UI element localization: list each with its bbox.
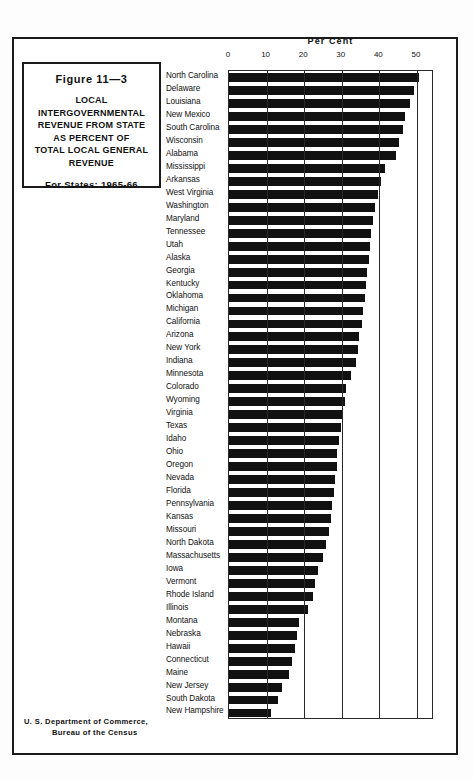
bar-row[interactable] bbox=[229, 668, 432, 681]
bar-row[interactable] bbox=[229, 136, 432, 149]
bar[interactable] bbox=[229, 255, 369, 264]
bar-row[interactable] bbox=[229, 499, 432, 512]
bar-row[interactable] bbox=[229, 694, 432, 707]
x-axis-tick-40: 40 bbox=[374, 50, 383, 59]
bar-row[interactable] bbox=[229, 538, 432, 551]
bar-row[interactable] bbox=[229, 681, 432, 694]
bar-row[interactable] bbox=[229, 330, 432, 343]
bar[interactable] bbox=[229, 112, 405, 121]
bar[interactable] bbox=[229, 86, 414, 95]
bar-row[interactable] bbox=[229, 175, 432, 188]
gridline-40 bbox=[379, 71, 380, 718]
bar[interactable] bbox=[229, 514, 331, 523]
bar-row[interactable] bbox=[229, 201, 432, 214]
bar-row[interactable] bbox=[229, 525, 432, 538]
bar-row[interactable] bbox=[229, 253, 432, 266]
bar-row[interactable] bbox=[229, 642, 432, 655]
bar-row[interactable] bbox=[229, 655, 432, 668]
bar-row[interactable] bbox=[229, 227, 432, 240]
bar-row[interactable] bbox=[229, 291, 432, 304]
bar[interactable] bbox=[229, 488, 334, 497]
bar-row[interactable] bbox=[229, 395, 432, 408]
bar[interactable] bbox=[229, 696, 278, 705]
bar-row[interactable] bbox=[229, 317, 432, 330]
bar[interactable] bbox=[229, 397, 345, 406]
bar-row[interactable] bbox=[229, 240, 432, 253]
bar-row[interactable] bbox=[229, 84, 432, 97]
bar[interactable] bbox=[229, 657, 292, 666]
bar-row[interactable] bbox=[229, 382, 432, 395]
bar-row[interactable] bbox=[229, 577, 432, 590]
bar[interactable] bbox=[229, 423, 341, 432]
bar[interactable] bbox=[229, 592, 313, 601]
bar[interactable] bbox=[229, 345, 358, 354]
bar-row[interactable] bbox=[229, 369, 432, 382]
bar[interactable] bbox=[229, 138, 399, 147]
bar[interactable] bbox=[229, 527, 329, 536]
bar[interactable] bbox=[229, 436, 339, 445]
bar[interactable] bbox=[229, 410, 343, 419]
bar-row[interactable] bbox=[229, 110, 432, 123]
bar[interactable] bbox=[229, 358, 356, 367]
category-label: South Carolina bbox=[166, 122, 226, 135]
bar[interactable] bbox=[229, 644, 295, 653]
bar-row[interactable] bbox=[229, 460, 432, 473]
bar[interactable] bbox=[229, 268, 367, 277]
bar-row[interactable] bbox=[229, 188, 432, 201]
bar[interactable] bbox=[229, 371, 351, 380]
bar[interactable] bbox=[229, 164, 385, 173]
bar[interactable] bbox=[229, 670, 289, 679]
bar[interactable] bbox=[229, 216, 373, 225]
bar-row[interactable] bbox=[229, 304, 432, 317]
bar-row[interactable] bbox=[229, 590, 432, 603]
bar-row[interactable] bbox=[229, 356, 432, 369]
bar-row[interactable] bbox=[229, 71, 432, 84]
bar[interactable] bbox=[229, 618, 299, 627]
bar[interactable] bbox=[229, 540, 326, 549]
bar[interactable] bbox=[229, 475, 335, 484]
bar[interactable] bbox=[229, 579, 315, 588]
bar-row[interactable] bbox=[229, 266, 432, 279]
bar-row[interactable] bbox=[229, 162, 432, 175]
bar-row[interactable] bbox=[229, 706, 432, 719]
bar[interactable] bbox=[229, 294, 365, 303]
bar[interactable] bbox=[229, 281, 366, 290]
bar-row[interactable] bbox=[229, 214, 432, 227]
bar[interactable] bbox=[229, 203, 375, 212]
bar-row[interactable] bbox=[229, 343, 432, 356]
bar-row[interactable] bbox=[229, 486, 432, 499]
bar-row[interactable] bbox=[229, 447, 432, 460]
bar-row[interactable] bbox=[229, 279, 432, 292]
bar[interactable] bbox=[229, 242, 370, 251]
bar[interactable] bbox=[229, 605, 308, 614]
bar[interactable] bbox=[229, 631, 297, 640]
bar[interactable] bbox=[229, 307, 363, 316]
bar[interactable] bbox=[229, 462, 337, 471]
bar[interactable] bbox=[229, 99, 410, 108]
bar[interactable] bbox=[229, 449, 337, 458]
bar[interactable] bbox=[229, 151, 396, 160]
bar[interactable] bbox=[229, 332, 359, 341]
bar-row[interactable] bbox=[229, 473, 432, 486]
bar-row[interactable] bbox=[229, 629, 432, 642]
bar-row[interactable] bbox=[229, 564, 432, 577]
bar-row[interactable] bbox=[229, 97, 432, 110]
bar[interactable] bbox=[229, 501, 332, 510]
bar-row[interactable] bbox=[229, 551, 432, 564]
bar-row[interactable] bbox=[229, 512, 432, 525]
bar[interactable] bbox=[229, 229, 371, 238]
bar-row[interactable] bbox=[229, 421, 432, 434]
bar[interactable] bbox=[229, 384, 346, 393]
bar-row[interactable] bbox=[229, 616, 432, 629]
bar-row[interactable] bbox=[229, 149, 432, 162]
bar-row[interactable] bbox=[229, 408, 432, 421]
bar[interactable] bbox=[229, 683, 282, 692]
bar-row[interactable] bbox=[229, 603, 432, 616]
gridline-10 bbox=[267, 71, 268, 718]
bar[interactable] bbox=[229, 125, 403, 134]
bar[interactable] bbox=[229, 73, 419, 82]
bar[interactable] bbox=[229, 709, 271, 718]
bar[interactable] bbox=[229, 553, 323, 562]
bar-row[interactable] bbox=[229, 123, 432, 136]
bar-row[interactable] bbox=[229, 434, 432, 447]
